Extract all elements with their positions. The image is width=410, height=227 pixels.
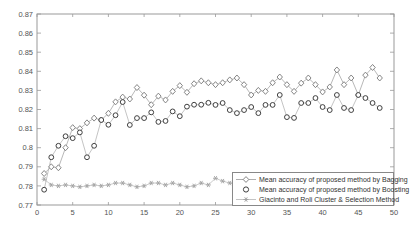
x-tick-label: 30 (247, 208, 255, 217)
circle-marker-icon (235, 185, 257, 194)
x-tick-label: 40 (318, 208, 326, 217)
y-tick-label: 0.84 (18, 67, 33, 76)
y-tick-label: 0.85 (18, 48, 33, 57)
legend-label-bagging: Mean accuracy of proposed method by Bagg… (259, 176, 408, 183)
y-tick-label: 0.87 (18, 10, 33, 19)
x-tick-label: 20 (176, 208, 184, 217)
legend-label-boosting: Mean accuracy of proposed method by Boos… (259, 186, 409, 193)
x-tick-label: 45 (354, 208, 362, 217)
y-tick-label: 0.81 (18, 124, 33, 133)
y-tick-label: 0.83 (18, 86, 33, 95)
y-tick-label: 0.82 (18, 105, 33, 114)
x-tick-label: 5 (71, 208, 75, 217)
legend-row-giacinto: Giacinto and Roli Cluster & Selection Me… (235, 195, 392, 204)
legend-row-boosting: Mean accuracy of proposed method by Boos… (235, 185, 392, 194)
x-tick-label: 25 (211, 208, 219, 217)
x-tick-label: 15 (140, 208, 148, 217)
legend-row-bagging: Mean accuracy of proposed method by Bagg… (235, 175, 392, 184)
y-tick-label: 0.77 (18, 201, 33, 210)
asterisk-line-marker-icon (235, 195, 257, 204)
x-tick-label: 35 (283, 208, 291, 217)
matlab-figure: 051015202530354045500.770.780.790.80.810… (0, 0, 410, 227)
legend: Mean accuracy of proposed method by Bagg… (232, 172, 394, 206)
y-tick-label: 0.78 (18, 182, 33, 191)
x-tick-label: 10 (104, 208, 112, 217)
y-tick-label: 0.86 (18, 29, 33, 38)
y-tick-label: 0.79 (18, 162, 33, 171)
x-tick-label: 50 (390, 208, 398, 217)
x-tick-label: 0 (35, 208, 39, 217)
legend-label-giacinto: Giacinto and Roli Cluster & Selection Me… (259, 196, 399, 203)
y-tick-label: 0.8 (23, 143, 33, 152)
diamond-line-marker-icon (235, 175, 257, 184)
